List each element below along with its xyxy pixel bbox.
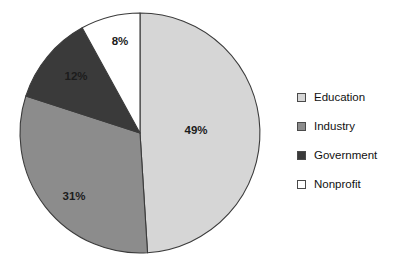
legend-swatch-government [297, 151, 306, 160]
chart-legend: Education Industry Government Nonprofit [297, 83, 402, 199]
pie-slice-group [20, 13, 260, 253]
legend-swatch-nonprofit [297, 180, 306, 189]
pie-data-label-education: 49% [184, 124, 207, 136]
legend-item-government: Government [297, 141, 402, 170]
legend-label-education: Education [314, 92, 365, 104]
legend-item-education: Education [297, 83, 402, 112]
pie-data-label-government: 12% [64, 70, 87, 82]
legend-label-industry: Industry [314, 121, 355, 133]
legend-swatch-education [297, 93, 306, 102]
pie-data-label-industry: 31% [62, 190, 85, 202]
legend-item-industry: Industry [297, 112, 402, 141]
legend-item-nonprofit: Nonprofit [297, 170, 402, 199]
legend-label-nonprofit: Nonprofit [314, 179, 361, 191]
legend-swatch-industry [297, 122, 306, 131]
legend-label-government: Government [314, 150, 377, 162]
pie-chart-figure: 49%31%12%8% Education Industry Governmen… [0, 0, 405, 268]
pie-data-label-nonprofit: 8% [112, 35, 129, 47]
